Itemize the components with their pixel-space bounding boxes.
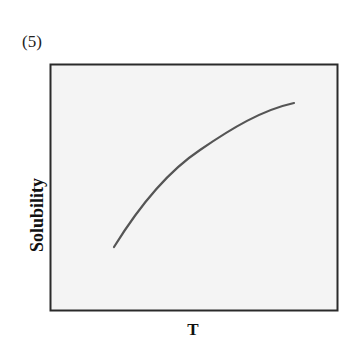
- plot-frame: [51, 65, 338, 311]
- x-axis-label: T: [187, 320, 198, 340]
- y-axis-label: Solubility: [27, 178, 48, 252]
- chart-plot: [0, 0, 358, 360]
